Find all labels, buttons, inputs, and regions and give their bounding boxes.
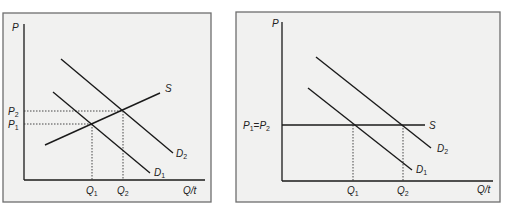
left-panel: P Q/t S D2 D1 P2 P1 Q1 Q2 (3, 13, 211, 202)
right-p1-eq-p2-label: P1=P2 (243, 120, 270, 132)
left-frame (3, 13, 211, 202)
diagram-canvas: P Q/t S D2 D1 P2 P1 Q1 Q2 P Q/t S D2 D1 … (0, 0, 509, 217)
right-s-label: S (429, 120, 436, 131)
right-frame (236, 12, 500, 202)
right-y-label: P (272, 18, 279, 29)
left-y-label: P (12, 22, 19, 33)
left-s-label: S (165, 83, 172, 94)
right-x-label: Q/t (477, 184, 492, 195)
right-panel: P Q/t S D2 D1 P1=P2 Q1 Q2 (236, 12, 500, 202)
left-x-label: Q/t (183, 185, 198, 196)
